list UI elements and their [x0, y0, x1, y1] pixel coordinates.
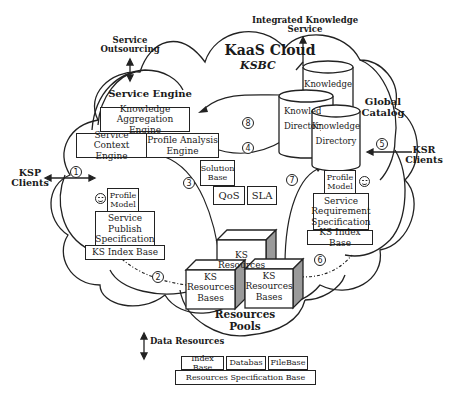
flow-number-2: 2: [152, 271, 164, 283]
resources-specification-base: Resources Specification Base: [175, 370, 316, 385]
flow-number-4: 4: [242, 142, 254, 154]
ksr-profile-model: Profile Model: [324, 170, 356, 194]
service-engine-title: Service Engine: [100, 88, 200, 99]
ksp-profile-model: Profile Model: [107, 188, 139, 212]
service-publish-specification: Service Publish Specification: [95, 211, 155, 247]
ks-resources-cube: KS Resources: [217, 250, 266, 271]
database-box: Databas: [226, 356, 266, 370]
service-outsourcing-label: Service Outsourcing: [95, 36, 165, 55]
flow-number-3: 3: [183, 177, 195, 189]
flow-number-1: 1: [70, 166, 82, 178]
ksp-clients-label: KSP Clients: [10, 168, 50, 189]
ksp-ks-index-base: KS Index Base: [85, 245, 165, 260]
service-requirement-specification: Service Requirement Specification: [313, 193, 369, 230]
ksr-ks-index-base: KS Index Base: [307, 230, 373, 245]
kaas-cloud-title: KaaS Cloud: [210, 43, 330, 58]
ksr-clients-label: KSR Clients: [404, 145, 444, 166]
integrated-knowledge-service-label: Integrated Knowledge Service: [245, 16, 365, 35]
flow-number-5: 5: [376, 138, 388, 150]
index-base-box: Index Base: [181, 356, 224, 370]
ks-resources-bases-right-cube: KS Resources Bases: [245, 271, 293, 302]
ksp-smiley-icon: [95, 193, 106, 204]
filebase-box: FileBase: [268, 356, 308, 370]
ksr-smiley-icon: [359, 176, 370, 187]
sla-box: SLA: [247, 186, 277, 205]
knowledge-aggregation-engine: Knowledge Aggregation Engine: [100, 107, 190, 132]
ks-resources-bases-left-cube: KS Resources Bases: [186, 272, 235, 303]
flow-number-8: 8: [242, 117, 254, 129]
flow-number-7: 7: [286, 174, 298, 186]
knowledge-library-cylinder: Knowledge: [300, 80, 356, 89]
profile-analysis-engine: Profile Analysis Engine: [146, 133, 219, 158]
global-catalog-title: Global Catalog: [358, 96, 408, 118]
flow-number-6: 6: [314, 254, 326, 266]
service-context-engine: Service Context Engine: [76, 133, 147, 158]
solution-base: Solution Base: [200, 160, 235, 186]
knowledge-directory-cylinder-front: Knowledge Directory: [312, 122, 360, 147]
qos-box: QoS: [213, 186, 245, 205]
ksbc-subtitle: KSBC: [228, 60, 288, 72]
resources-pools-title: Resources Pools: [210, 309, 280, 332]
data-resources-label: Data Resources: [150, 337, 224, 346]
